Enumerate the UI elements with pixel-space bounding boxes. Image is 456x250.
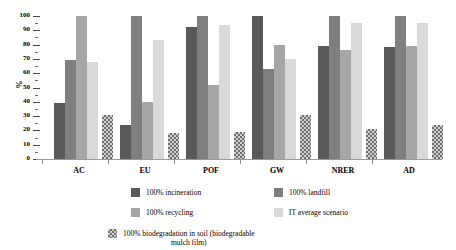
bar <box>432 125 443 159</box>
x-axis-category-label: GW <box>244 166 310 175</box>
bar <box>252 16 263 159</box>
y-axis-minor-tick-mark <box>35 37 38 38</box>
y-axis-minor-tick <box>0 80 41 81</box>
x-axis-tick-mark <box>108 159 109 164</box>
y-axis-tick-label: 100 <box>20 11 31 19</box>
x-axis-tick-mark <box>42 159 43 164</box>
x-axis-category-label: POF <box>178 166 244 175</box>
y-axis-tick: 70 <box>0 59 41 60</box>
legend-item-it-average-scenario[interactable]: IT average scenario <box>274 208 348 217</box>
bar <box>186 27 197 159</box>
plot-area <box>41 16 441 159</box>
y-axis-minor-tick <box>0 95 41 96</box>
x-axis-tick-mark <box>240 159 241 164</box>
y-axis-minor-tick-mark <box>35 109 38 110</box>
y-axis-minor-tick <box>0 66 41 67</box>
bar-group <box>120 16 186 159</box>
bar <box>197 16 208 159</box>
bar <box>351 23 362 159</box>
legend-item-incineration[interactable]: 100% incineration <box>131 188 201 197</box>
bar <box>285 59 296 159</box>
y-axis-tick: 80 <box>0 45 41 46</box>
legend-label-it-average-scenario: IT average scenario <box>289 208 348 217</box>
y-axis-tick-label: 60 <box>23 68 30 76</box>
y-axis-minor-tick-mark <box>35 80 38 81</box>
x-axis-category-label: AD <box>376 166 442 175</box>
legend-label-biodegradation: 100% biodegradation in soil (biodegradab… <box>123 229 255 247</box>
y-axis-minor-tick-mark <box>35 95 38 96</box>
y-axis-tick: 30 <box>0 116 41 117</box>
legend-swatch-it-average-icon <box>274 208 283 217</box>
chart-legend: 100% incineration 100% landfill 100% rec… <box>0 186 456 250</box>
bar <box>300 115 311 159</box>
legend-swatch-biodegradation-icon <box>108 229 117 238</box>
bar <box>219 25 230 159</box>
y-axis-tick-label: 10 <box>23 140 30 148</box>
y-axis-tick-label: 20 <box>23 125 30 133</box>
y-axis-tick-mark <box>33 102 40 103</box>
bar <box>406 46 417 159</box>
y-axis-minor-tick <box>0 52 41 53</box>
y-axis-tick: 10 <box>0 145 41 146</box>
bar <box>168 133 179 159</box>
y-axis-minor-tick <box>0 123 41 124</box>
y-axis-minor-tick-mark <box>35 23 38 24</box>
x-axis-tick-mark <box>174 159 175 164</box>
legend-swatch-incineration-icon <box>131 188 140 197</box>
bar <box>274 45 285 159</box>
y-axis-tick: 0 <box>0 159 41 160</box>
y-axis-minor-tick-mark <box>35 66 38 67</box>
bar <box>263 69 274 159</box>
legend-swatch-landfill-icon <box>274 188 283 197</box>
y-axis-tick-label: 0 <box>27 154 31 162</box>
bar <box>142 102 153 159</box>
y-axis-minor-tick-mark <box>35 152 38 153</box>
y-axis-minor-tick <box>0 152 41 153</box>
bar <box>120 125 131 159</box>
y-axis-tick: 40 <box>0 102 41 103</box>
bar <box>366 129 377 159</box>
x-axis-tick-mark <box>306 159 307 164</box>
bar <box>65 60 76 159</box>
bar <box>340 50 351 159</box>
x-axis-tick-mark <box>372 159 373 164</box>
bar <box>208 85 219 159</box>
bar-group <box>318 16 384 159</box>
y-axis-tick-label: 50 <box>23 83 30 91</box>
y-axis-tick-label: 80 <box>23 40 30 48</box>
legend-item-recycling[interactable]: 100% recycling <box>131 208 193 217</box>
y-axis-tick-mark <box>33 16 40 17</box>
bar-group <box>252 16 318 159</box>
y-axis-minor-tick <box>0 109 41 110</box>
bar <box>329 16 340 159</box>
bar <box>384 47 395 159</box>
bar <box>102 115 113 159</box>
legend-label-landfill: 100% landfill <box>289 188 330 197</box>
y-axis-tick: 90 <box>0 30 41 31</box>
y-axis-tick-label: 30 <box>23 111 30 119</box>
y-axis-minor-tick <box>0 37 41 38</box>
legend-item-landfill[interactable]: 100% landfill <box>274 188 330 197</box>
y-axis-tick-label: 40 <box>23 97 30 105</box>
y-axis-tick-mark <box>33 45 40 46</box>
y-axis-minor-tick-mark <box>35 138 38 139</box>
y-axis-tick-mark <box>33 116 40 117</box>
y-axis-tick-label: 70 <box>23 54 30 62</box>
x-axis-line <box>36 159 442 160</box>
legend-label-incineration: 100% incineration <box>146 188 201 197</box>
legend-item-biodegradation[interactable]: 100% biodegradation in soil (biodegradab… <box>108 229 255 247</box>
bar <box>395 16 406 159</box>
y-axis-tick-mark <box>33 130 40 131</box>
y-axis-tick: 50 <box>0 88 41 89</box>
y-axis-minor-tick <box>0 138 41 139</box>
bar <box>131 16 142 159</box>
x-axis-category-label: EU <box>112 166 178 175</box>
y-axis-tick: 60 <box>0 73 41 74</box>
bar <box>87 62 98 159</box>
legend-label-recycling: 100% recycling <box>146 208 193 217</box>
y-axis-tick-mark <box>33 88 40 89</box>
bar <box>417 23 428 159</box>
legend-swatch-recycling-icon <box>131 208 140 217</box>
bar-group <box>384 16 450 159</box>
x-axis-category-label: AC <box>46 166 112 175</box>
